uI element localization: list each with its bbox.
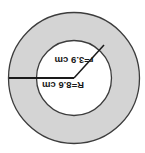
outer-radius-label: R=8.6 cm — [42, 80, 84, 91]
annulus-figure: R=8.6 cm r=3.9 cm — [0, 0, 145, 153]
inner-radius-label: r=3.9 cm — [55, 55, 94, 66]
annulus-diagram-svg: R=8.6 cm r=3.9 cm — [0, 0, 145, 153]
